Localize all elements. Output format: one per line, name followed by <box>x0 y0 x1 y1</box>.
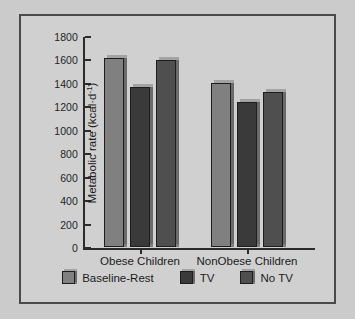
bar <box>263 92 283 247</box>
x-axis-tick-mark <box>140 248 142 254</box>
legend-swatch <box>180 271 193 284</box>
legend-swatch <box>62 271 75 284</box>
y-axis-tick-label: 1600 <box>54 54 78 66</box>
scanned-page: 180016001400120010008006004002000 Metabo… <box>0 0 355 319</box>
y-axis-title-main: Metabolic rate (kcal·d <box>86 94 98 204</box>
y-axis-tick-label: 400 <box>60 195 78 207</box>
y-axis-tick-label: 1800 <box>54 31 78 43</box>
y-axis-tick-mark <box>85 224 91 226</box>
y-axis-tick-mark <box>85 59 91 61</box>
chart-legend: Baseline-RestTVNo TV <box>21 271 334 284</box>
legend-entry: No TV <box>240 271 292 284</box>
y-axis-title-tail: ) <box>86 83 98 87</box>
bar <box>156 60 176 247</box>
legend-entry: TV <box>180 271 215 284</box>
y-axis-tick-label: 1000 <box>54 125 78 137</box>
legend-label: Baseline-Rest <box>82 272 154 284</box>
y-axis-tick-label: 600 <box>60 172 78 184</box>
x-axis-tick-mark <box>247 248 249 254</box>
legend-swatch <box>240 271 253 284</box>
y-axis-title: Metabolic rate (kcal·d-1) <box>85 83 99 204</box>
legend-label: No TV <box>260 272 292 284</box>
y-axis-title-exponent: -1 <box>85 86 94 93</box>
bar <box>104 58 124 247</box>
x-axis-category-label: Obese Children <box>100 255 180 267</box>
figure-panel: 180016001400120010008006004002000 Metabo… <box>19 14 336 304</box>
y-axis-tick-mark <box>85 36 91 38</box>
legend-label: TV <box>200 272 215 284</box>
y-axis-tick-mark <box>85 247 91 249</box>
bar <box>237 102 257 247</box>
y-axis-tick-label: 1200 <box>54 101 78 113</box>
y-axis-tick-label: 200 <box>60 219 78 231</box>
bar <box>130 87 150 247</box>
bar <box>211 83 231 247</box>
y-axis-tick-label: 800 <box>60 148 78 160</box>
y-axis-tick-label: 0 <box>72 242 78 254</box>
x-axis-line <box>83 248 315 250</box>
legend-entry: Baseline-Rest <box>62 271 154 284</box>
y-axis-tick-label: 1400 <box>54 78 78 90</box>
plot-area: 180016001400120010008006004002000 Metabo… <box>83 37 318 249</box>
x-axis-category-label: NonObese Children <box>196 255 297 267</box>
